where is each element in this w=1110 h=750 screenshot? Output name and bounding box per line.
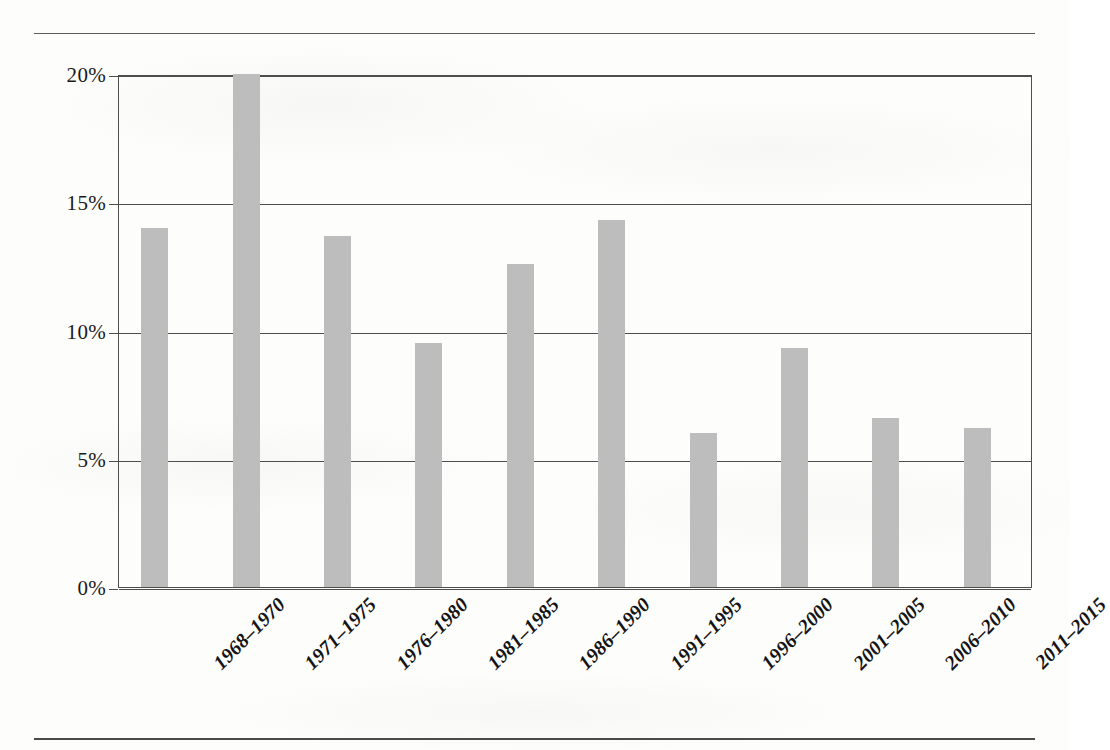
y-tick-label: 10% xyxy=(67,319,106,344)
x-tick-label: 1971–1975 xyxy=(300,593,381,674)
bar xyxy=(598,220,625,587)
y-tick-label: 0% xyxy=(77,576,106,601)
bar xyxy=(415,343,442,587)
y-tick-mark xyxy=(109,76,118,77)
y-tick-mark xyxy=(109,589,118,590)
gridline-0pct xyxy=(119,589,1031,590)
x-tick-label: 1991–1995 xyxy=(666,593,747,674)
bar xyxy=(324,236,351,587)
x-tick-label: 1986–1990 xyxy=(574,593,655,674)
y-tick-label: 15% xyxy=(67,191,106,216)
x-tick-label: 2001–2005 xyxy=(848,593,929,674)
bar xyxy=(872,418,899,587)
bar xyxy=(781,348,808,587)
x-tick-label: 2006–2010 xyxy=(940,593,1021,674)
bar xyxy=(141,228,168,587)
plot-area xyxy=(118,75,1032,588)
y-tick-label: 20% xyxy=(67,63,106,88)
bar xyxy=(507,264,534,587)
x-axis-labels: 1968–19701971–19751976–19801981–19851986… xyxy=(118,593,1032,713)
bar-series xyxy=(119,76,1031,587)
y-tick-label: 5% xyxy=(77,447,106,472)
x-tick-label: 1968–1970 xyxy=(209,593,290,674)
bar xyxy=(233,74,260,587)
y-tick-mark xyxy=(109,333,118,334)
y-tick-mark xyxy=(109,204,118,205)
y-tick-mark xyxy=(109,461,118,462)
bar xyxy=(964,428,991,587)
x-tick-label: 1981–1985 xyxy=(483,593,564,674)
x-tick-label: 1976–1980 xyxy=(391,593,472,674)
x-tick-label: 2011–2015 xyxy=(1031,593,1110,673)
bar xyxy=(690,433,717,587)
x-tick-label: 1996–2000 xyxy=(757,593,838,674)
y-axis-labels: 0%5%10%15%20% xyxy=(20,0,106,750)
